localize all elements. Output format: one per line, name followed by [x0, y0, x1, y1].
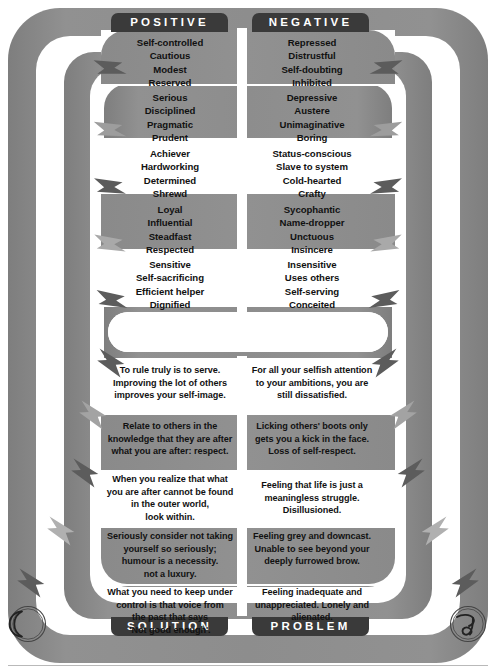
- capricorn-icon: [448, 604, 488, 644]
- cell-problem-1: For all your selfish attentionto your am…: [248, 364, 376, 402]
- arrow-lb-5: [14, 569, 47, 598]
- tab-positive[interactable]: POSITIVE: [111, 13, 228, 32]
- cell-negative-1: RepressedDistrustfulSelf-doubtingInhibit…: [248, 36, 376, 89]
- arrow-rb-2: [388, 401, 421, 430]
- cell-solution-4: Seriously consider not takingyourself so…: [106, 530, 234, 580]
- cell-solution-2: Relate to others in theknowledge that th…: [106, 420, 234, 458]
- cell-negative-4: SycophanticName-dropperUnctuousInsincere: [248, 203, 376, 256]
- tab-negative[interactable]: NEGATIVE: [252, 13, 369, 32]
- cell-positive-1: Self-controlledCautiousModestReserved: [106, 36, 234, 89]
- cell-solution-3: When you realize that whatyou are after …: [106, 473, 234, 523]
- crescent-moon-icon: [8, 604, 48, 644]
- cell-problem-3: Feeling that life is just ameaningless s…: [248, 479, 376, 517]
- diagram-canvas: POSITIVE NEGATIVE SOLUTION PROBLEM Self-…: [0, 0, 496, 671]
- cell-positive-3: AchieverHardworkingDeterminedShrewd: [106, 147, 234, 200]
- arrow-rb-4: [420, 517, 453, 546]
- cell-negative-3: Status-consciousSlave to systemCold-hear…: [248, 147, 376, 200]
- arrow-rb-3: [396, 459, 429, 488]
- cell-positive-4: LoyalInfluentialSteadfastRespected: [106, 203, 234, 256]
- cell-positive-2: SeriousDisciplinedPragmaticPrudent: [106, 91, 234, 144]
- cell-positive-5: SensitiveSelf-sacrificingEfficient helpe…: [106, 258, 234, 311]
- cell-problem-5: Feeling inadequate andunappreciated. Lon…: [248, 586, 376, 624]
- arrows-right-bottom: [370, 349, 483, 598]
- cell-negative-2: DepressiveAustereUnimaginativeBoring: [248, 91, 376, 144]
- arrow-rb-5: [450, 569, 483, 598]
- arrow-lb-2: [76, 401, 109, 430]
- cell-problem-4: Feeling grey and downcast.Unable to see …: [248, 530, 376, 568]
- cell-problem-2: Licking others' boots onlygets you a kic…: [248, 420, 376, 458]
- page-rule: [8, 665, 488, 666]
- arrow-lb-4: [44, 517, 77, 546]
- cell-solution-1: To rule truly is to serve.Improving the …: [106, 364, 234, 402]
- cell-solution-5: What you need to keep undercontrol is th…: [106, 586, 234, 636]
- arrow-lb-3: [68, 459, 101, 488]
- cell-negative-5: InsensitiveUses othersSelf-servingConcei…: [248, 258, 376, 311]
